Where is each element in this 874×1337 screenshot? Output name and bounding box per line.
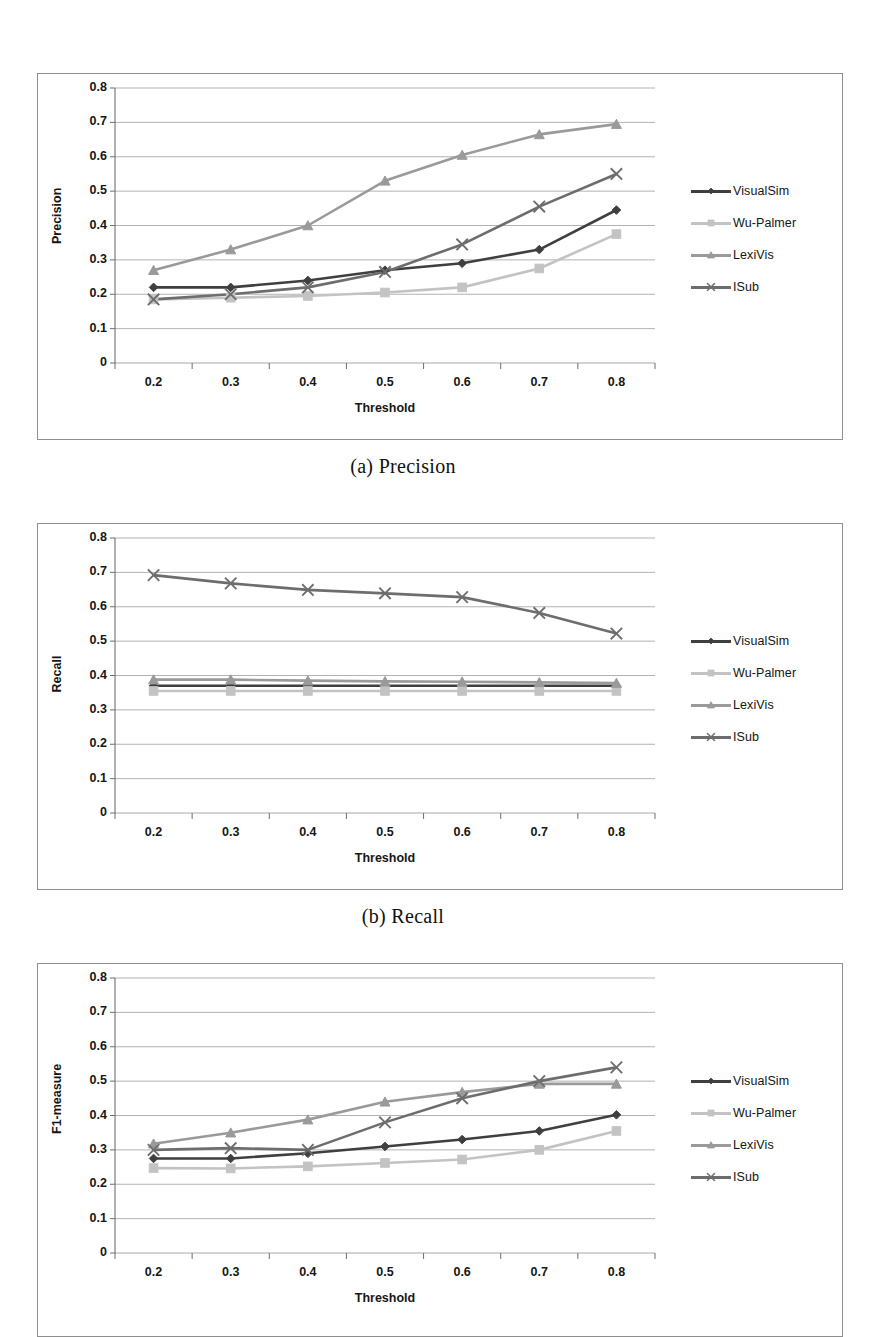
legend-item-lexivis[interactable]: LexiVis [691,248,796,262]
legend-item-visualsim[interactable]: VisualSim [691,1074,796,1088]
legend-label: VisualSim [733,184,789,198]
legend-item-isub[interactable]: ISub [691,730,796,744]
y-axis-tick-label: 0.1 [53,771,107,785]
y-axis-tick-label: 0.5 [53,633,107,647]
x-axis-tick-label: 0.8 [586,825,646,839]
x-axis-tick-label: 0.3 [201,1265,261,1279]
legend-label: VisualSim [733,634,789,648]
legend-label: LexiVis [733,698,774,712]
y-axis-tick-label: 0.3 [53,252,107,266]
figure-page: 00.10.20.30.40.50.60.70.80.20.30.40.50.6… [0,0,874,1337]
y-axis-tick-label: 0.6 [53,599,107,613]
y-axis-tick-label: 0.2 [53,286,107,300]
legend-swatch-triangle-icon [691,248,731,262]
x-axis-tick-label: 0.2 [124,1265,184,1279]
legend-label: Wu-Palmer [733,216,796,230]
legend-item-visualsim[interactable]: VisualSim [691,634,796,648]
caption-precision: (a) Precision [0,455,806,478]
y-axis-tick-label: 0.8 [53,80,107,94]
legend-item-lexivis[interactable]: LexiVis [691,1138,796,1152]
legend-label: Wu-Palmer [733,1106,796,1120]
y-axis-tick-label: 0 [53,1245,107,1259]
chart-f1-measure: 00.10.20.30.40.50.60.70.80.20.30.40.50.6… [37,963,843,1337]
y-axis-tick-label: 0.6 [53,149,107,163]
x-axis-tick-label: 0.4 [278,1265,338,1279]
y-axis-tick-label: 0.7 [53,114,107,128]
x-axis-tick-label: 0.3 [201,825,261,839]
y-axis-title: Recall [50,654,64,694]
legend-swatch-diamond-icon [691,184,731,198]
legend-swatch-square-icon [691,666,731,680]
y-axis-tick-label: 0.3 [53,702,107,716]
y-axis-tick-label: 0.2 [53,1176,107,1190]
y-axis-tick-label: 0.1 [53,1211,107,1225]
x-axis-tick-label: 0.7 [509,1265,569,1279]
legend-label: LexiVis [733,1138,774,1152]
x-axis-title: Threshold [115,401,655,415]
chart-legend: VisualSimWu-PalmerLexiVisISub [691,1074,796,1184]
y-axis-tick-label: 0.8 [53,970,107,984]
x-axis-tick-label: 0.2 [124,375,184,389]
x-axis-tick-label: 0.5 [355,825,415,839]
legend-item-wu-palmer[interactable]: Wu-Palmer [691,666,796,680]
x-axis-tick-label: 0.7 [509,375,569,389]
y-axis-tick-label: 0 [53,355,107,369]
legend-label: ISub [733,730,759,744]
legend-label: ISub [733,280,759,294]
legend-item-lexivis[interactable]: LexiVis [691,698,796,712]
legend-swatch-triangle-icon [691,1138,731,1152]
y-axis-tick-label: 0.6 [53,1039,107,1053]
legend-swatch-cross-icon [691,280,731,294]
x-axis-tick-label: 0.8 [586,1265,646,1279]
y-axis-title: F1-measure [50,1094,64,1134]
legend-item-wu-palmer[interactable]: Wu-Palmer [691,216,796,230]
plot-area-precision: 00.10.20.30.40.50.60.70.80.20.30.40.50.6… [37,73,843,440]
y-axis-tick-label: 0.7 [53,1004,107,1018]
y-axis-tick-label: 0.3 [53,1142,107,1156]
legend-item-wu-palmer[interactable]: Wu-Palmer [691,1106,796,1120]
legend-label: ISub [733,1170,759,1184]
legend-swatch-diamond-icon [691,634,731,648]
legend-swatch-cross-icon [691,1170,731,1184]
x-axis-title: Threshold [115,1291,655,1305]
x-axis-tick-label: 0.3 [201,375,261,389]
x-axis-title: Threshold [115,851,655,865]
caption-recall: (b) Recall [0,905,806,928]
legend-label: VisualSim [733,1074,789,1088]
y-axis-title: Precision [50,204,64,244]
y-axis-tick-label: 0.1 [53,321,107,335]
x-axis-tick-label: 0.6 [432,825,492,839]
legend-swatch-triangle-icon [691,698,731,712]
y-axis-tick-label: 0.2 [53,736,107,750]
x-axis-tick-label: 0.8 [586,375,646,389]
x-axis-tick-label: 0.6 [432,375,492,389]
x-axis-tick-label: 0.5 [355,1265,415,1279]
legend-label: LexiVis [733,248,774,262]
chart-precision: 00.10.20.30.40.50.60.70.80.20.30.40.50.6… [37,73,843,440]
x-axis-tick-label: 0.2 [124,825,184,839]
legend-item-visualsim[interactable]: VisualSim [691,184,796,198]
legend-item-isub[interactable]: ISub [691,1170,796,1184]
legend-swatch-square-icon [691,216,731,230]
x-axis-tick-label: 0.4 [278,375,338,389]
y-axis-tick-label: 0.8 [53,530,107,544]
legend-item-isub[interactable]: ISub [691,280,796,294]
chart-recall: 00.10.20.30.40.50.60.70.80.20.30.40.50.6… [37,523,843,890]
legend-label: Wu-Palmer [733,666,796,680]
x-axis-tick-label: 0.6 [432,1265,492,1279]
y-axis-tick-label: 0 [53,805,107,819]
plot-area-f1-measure: 00.10.20.30.40.50.60.70.80.20.30.40.50.6… [37,963,843,1337]
legend-swatch-square-icon [691,1106,731,1120]
y-axis-tick-label: 0.7 [53,564,107,578]
chart-legend: VisualSimWu-PalmerLexiVisISub [691,634,796,744]
legend-swatch-diamond-icon [691,1074,731,1088]
x-axis-tick-label: 0.4 [278,825,338,839]
plot-area-recall: 00.10.20.30.40.50.60.70.80.20.30.40.50.6… [37,523,843,890]
chart-legend: VisualSimWu-PalmerLexiVisISub [691,184,796,294]
x-axis-tick-label: 0.7 [509,825,569,839]
legend-swatch-cross-icon [691,730,731,744]
x-axis-tick-label: 0.5 [355,375,415,389]
